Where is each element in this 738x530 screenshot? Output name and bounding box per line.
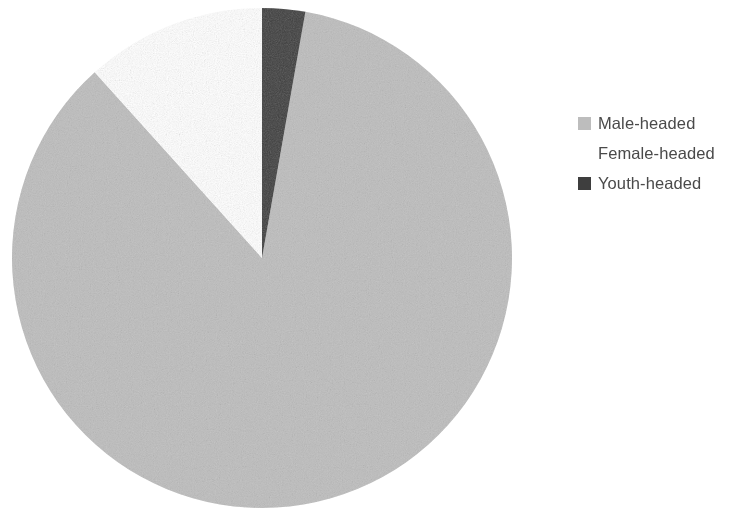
- pie-chart-figure: Male-headed Female-headed Youth-headed: [0, 0, 738, 530]
- legend-swatch-male-headed: [578, 117, 591, 130]
- legend-item-female-headed: Female-headed: [578, 138, 738, 168]
- legend-label-male-headed: Male-headed: [598, 115, 695, 132]
- chart-legend: Male-headed Female-headed Youth-headed: [578, 108, 738, 198]
- pie-plot-area: [0, 0, 560, 530]
- pie-svg: [0, 0, 560, 530]
- legend-label-female-headed: Female-headed: [598, 145, 715, 162]
- legend-swatch-youth-headed: [578, 177, 591, 190]
- legend-label-youth-headed: Youth-headed: [598, 175, 701, 192]
- legend-item-youth-headed: Youth-headed: [578, 168, 738, 198]
- legend-item-male-headed: Male-headed: [578, 108, 738, 138]
- scan-grain-overlay: [0, 0, 560, 530]
- legend-swatch-female-headed: [578, 147, 591, 160]
